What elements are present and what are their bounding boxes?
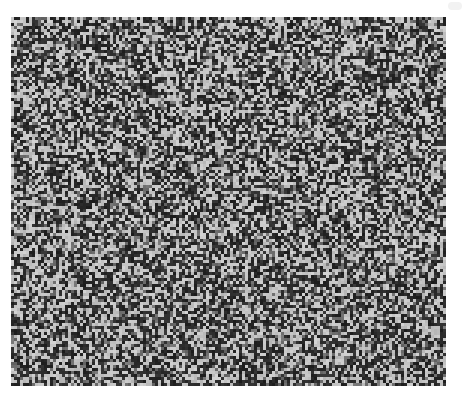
- corner-smudge: [448, 2, 462, 10]
- noise-image: [11, 17, 446, 386]
